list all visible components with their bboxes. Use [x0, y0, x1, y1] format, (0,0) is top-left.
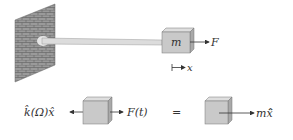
equals-sign: =	[172, 106, 181, 119]
applied-force-label: F(t)	[126, 106, 148, 119]
stiffness-force-label: k̂(Ω)x̂	[24, 105, 55, 119]
dynamics-diagram: m F x k̂(Ω)x̂ F(t) = mẍ̂	[0, 0, 293, 140]
displacement-indicator: x	[172, 62, 193, 73]
rod	[42, 38, 162, 45]
inertial-diagram: mẍ̂	[205, 97, 273, 124]
mass-block: m	[162, 28, 194, 53]
mass-label: m	[171, 36, 181, 49]
force-label: F	[210, 36, 219, 49]
free-body-diagram: k̂(Ω)x̂ F(t)	[24, 97, 148, 124]
force-arrow: F	[190, 36, 219, 49]
displacement-label: x	[187, 62, 193, 73]
inertia-label: mẍ̂	[256, 107, 273, 120]
